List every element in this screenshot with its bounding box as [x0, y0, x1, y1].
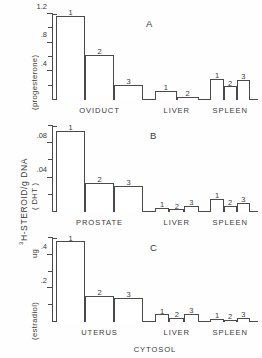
- y-axis-top-cap-c: [52, 238, 57, 239]
- panel-letter-a: A: [146, 18, 152, 29]
- bar: 2: [224, 320, 237, 322]
- bar: 1: [56, 241, 85, 322]
- bar-label: 2: [186, 90, 190, 98]
- x-group-label: SPLEEN: [213, 218, 248, 227]
- y-tick: [47, 254, 53, 255]
- figure-container: (progesterone) 3H-STEROID/g DNA ( DHT ) …: [0, 0, 262, 358]
- bar-label: 1: [160, 201, 164, 209]
- bar-label: 1: [215, 312, 219, 320]
- y-tick: [48, 85, 53, 86]
- y-tick: [48, 194, 53, 195]
- y-tick: [48, 125, 53, 126]
- y-axis-top-cap-a: [52, 14, 57, 15]
- bar: 1: [155, 91, 177, 100]
- bar-label: 2: [175, 203, 179, 211]
- x-group-label: LIVER: [164, 218, 190, 227]
- bar: 2: [224, 86, 237, 100]
- bar: 1: [210, 79, 223, 101]
- bar: 2: [85, 296, 114, 322]
- bar: 3: [184, 206, 199, 212]
- bar-label: 1: [68, 9, 72, 17]
- y-tick-label: .8: [41, 31, 47, 39]
- bar: 3: [114, 186, 143, 212]
- y-axis-label-progesterone: (progesterone): [30, 55, 39, 110]
- y-tick: [47, 70, 53, 71]
- panel-c: .2.4123123123 UTERUSLIVERSPLEEN: [52, 238, 250, 338]
- panel-letter-b: B: [150, 130, 156, 141]
- bar: 3: [114, 298, 143, 322]
- y-tick: [48, 271, 53, 272]
- x-group-label: UTERUS: [81, 328, 118, 337]
- bar: 1: [56, 131, 85, 212]
- y-tick-label: .08: [37, 132, 47, 140]
- bar: 1: [56, 16, 85, 100]
- y-tick: [47, 177, 53, 178]
- panel-a: .4.81.212312123 OVIDUCTLIVERSPLEEN: [52, 14, 250, 116]
- bar-label: 3: [189, 199, 193, 207]
- bar-label: 3: [241, 196, 245, 204]
- bar: 1: [210, 319, 223, 322]
- x-group-label: SPLEEN: [213, 328, 248, 337]
- bar-label: 1: [215, 72, 219, 80]
- bar-label: 2: [228, 199, 232, 207]
- y-tick: [48, 304, 53, 305]
- bar-label: 1: [160, 308, 164, 316]
- bar-label: 1: [164, 84, 168, 92]
- bar: 1: [155, 208, 170, 212]
- bar: 2: [169, 318, 184, 322]
- bar: 2: [85, 55, 114, 100]
- bar: 2: [177, 97, 199, 100]
- bar-label: 2: [97, 289, 101, 297]
- bar: 3: [184, 314, 199, 322]
- bar: 1: [155, 314, 170, 322]
- x-group-label: LIVER: [164, 106, 190, 115]
- y-tick: [48, 159, 53, 160]
- y-tick-label: .2: [41, 277, 47, 285]
- bar: 1: [210, 199, 223, 212]
- panel-letter-c: C: [150, 242, 157, 253]
- bar-label: 2: [228, 313, 232, 321]
- y-axis-line-b: [52, 126, 53, 212]
- x-group-label: OVIDUCT: [79, 106, 119, 115]
- bar-label: 3: [241, 73, 245, 81]
- bar-label: 2: [228, 80, 232, 88]
- y-axis-label-estradiol: (estradiol): [30, 302, 39, 340]
- bar: 3: [114, 85, 143, 100]
- bar-label: 2: [97, 176, 101, 184]
- bar-label: 3: [241, 311, 245, 319]
- y-tick: [48, 237, 53, 238]
- bar: 2: [169, 209, 184, 212]
- y-axis-top-cap-b: [52, 126, 57, 127]
- y-tick: [47, 42, 53, 43]
- y-tick-label: .04: [37, 166, 47, 174]
- bar-label: 2: [97, 48, 101, 56]
- y-axis-label-dht: ( DHT ): [30, 182, 39, 210]
- bar-label: 3: [126, 291, 130, 299]
- y-axis-line-c: [52, 238, 53, 322]
- y-tick-label: .4: [41, 60, 47, 68]
- y-tick: [47, 142, 53, 143]
- y-tick: [47, 287, 53, 288]
- x-axis-label-cytosol: CYTOSOL: [134, 345, 176, 354]
- bar: 3: [237, 318, 250, 322]
- bar-label: 1: [68, 235, 72, 243]
- panel-b: .04.08123123123 PROSTATELIVERSPLEEN: [52, 126, 250, 228]
- x-group-label: PROSTATE: [76, 218, 123, 227]
- bar-label: 3: [126, 179, 130, 187]
- x-group-label: SPLEEN: [213, 106, 248, 115]
- y-tick-label: 1.2: [37, 3, 47, 11]
- y-axis-label-steroid-per-dna: 3H-STEROID/g DNA: [18, 158, 29, 245]
- y-tick: [48, 56, 53, 57]
- bar-label: 3: [189, 307, 193, 315]
- bar-label: 3: [126, 78, 130, 86]
- bar: 3: [237, 80, 250, 100]
- y-tick: [48, 27, 53, 28]
- bar-label: 2: [175, 311, 179, 319]
- bar-label: 1: [215, 192, 219, 200]
- x-group-label: LIVER: [164, 328, 190, 337]
- bar-label: 1: [68, 124, 72, 132]
- y-tick: [47, 13, 53, 14]
- bar: 3: [237, 203, 250, 212]
- bar: 2: [224, 206, 237, 212]
- y-tick-label: .4: [41, 244, 47, 252]
